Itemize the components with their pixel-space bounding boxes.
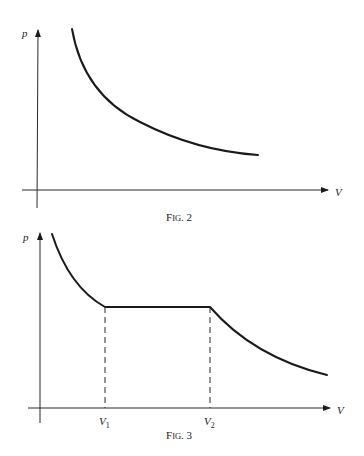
fig2-x-axis-label: V	[335, 186, 343, 198]
fig3-y-axis-label: p	[22, 231, 29, 243]
figure-canvas: p V FIG. 2 p V V1 V2 FIG. 3	[0, 0, 364, 456]
fig2-y-axis-label: p	[21, 27, 28, 39]
fig3-diagram: p V V1 V2 FIG. 3	[22, 231, 345, 441]
fig2-y-axis	[37, 30, 38, 208]
fig3-tick-v2: V2	[204, 415, 215, 430]
fig2-caption: FIG. 2	[166, 211, 192, 223]
fig2-diagram: p V FIG. 2	[21, 27, 343, 223]
fig2-isotherm-curve	[72, 29, 258, 155]
fig3-tick-v1: V1	[99, 415, 110, 430]
fig3-x-axis-label: V	[337, 404, 345, 416]
fig3-isotherm-curve	[52, 234, 327, 375]
fig3-caption: FIG. 3	[166, 429, 193, 441]
